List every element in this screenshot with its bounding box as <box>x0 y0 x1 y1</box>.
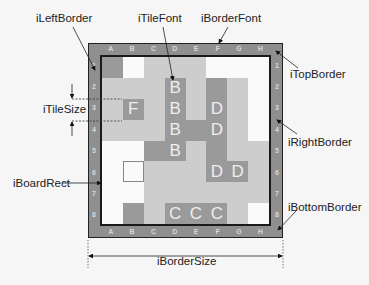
label-bottom-border: iBottomBorder <box>288 201 362 213</box>
board-cell-D8: C <box>165 203 186 224</box>
board-cell-E5 <box>186 141 207 162</box>
left-row-label: 6 <box>89 169 99 176</box>
board-cell-H7 <box>248 182 269 203</box>
board-cell-G2 <box>227 78 248 99</box>
board-cell-A5 <box>102 141 123 162</box>
right-row-label: 1 <box>272 62 282 69</box>
board-cell-B2 <box>123 78 144 99</box>
left-row-label: 8 <box>89 211 99 218</box>
left-row-label: 3 <box>89 104 99 111</box>
board-cell-C6 <box>144 161 165 182</box>
board-cell-B6 <box>123 161 144 182</box>
board-cell-D3: B <box>165 99 186 120</box>
board-cell-G4 <box>227 120 248 141</box>
board-cell-A8 <box>102 203 123 224</box>
board-cell-F3: D <box>206 99 227 120</box>
board-cell-A1 <box>102 57 123 78</box>
board-cell-C5 <box>144 141 165 162</box>
right-row-label: 5 <box>272 147 282 154</box>
board-cell-C4 <box>144 120 165 141</box>
board-cell-A2 <box>102 78 123 99</box>
board-cell-F6: D <box>206 161 227 182</box>
board-cell-E3 <box>186 99 207 120</box>
board-cell-F2 <box>206 78 227 99</box>
right-row-label: 2 <box>272 83 282 90</box>
board-grid: BFBDBDBDDCCC <box>100 55 271 226</box>
board-cell-D5: B <box>165 141 186 162</box>
board-cell-H4 <box>248 120 269 141</box>
board-cell-E1 <box>186 57 207 78</box>
board-cell-A6 <box>102 161 123 182</box>
board-cell-A4 <box>102 120 123 141</box>
board-cell-C1 <box>144 57 165 78</box>
label-border-size: iBorderSize <box>157 255 216 267</box>
board-cell-D6 <box>165 161 186 182</box>
board-cell-B7 <box>123 182 144 203</box>
board-cell-H8 <box>248 203 269 224</box>
board-cell-H3 <box>248 99 269 120</box>
left-row-label: 2 <box>89 83 99 90</box>
board-cell-H5 <box>248 141 269 162</box>
board-cell-E4 <box>186 120 207 141</box>
bottom-column-label: A <box>100 228 121 235</box>
board-cell-F4: D <box>206 120 227 141</box>
right-row-label: 8 <box>272 211 282 218</box>
board-cell-D2: B <box>165 78 186 99</box>
right-row-label: 3 <box>272 104 282 111</box>
board-cell-B4 <box>123 120 144 141</box>
label-top-border: iTopBorder <box>290 68 346 80</box>
bottom-column-label: G <box>228 228 249 235</box>
board-cell-G3 <box>227 99 248 120</box>
board-cell-G6: D <box>227 161 248 182</box>
top-column-label: F <box>207 45 228 52</box>
left-row-label: 4 <box>89 126 99 133</box>
board-cell-A7 <box>102 182 123 203</box>
bottom-column-label: B <box>121 228 142 235</box>
left-row-label: 5 <box>89 147 99 154</box>
label-right-border: iRightBorder <box>288 136 352 148</box>
label-tile-font: iTileFont <box>138 12 182 24</box>
board-cell-B1 <box>123 57 144 78</box>
label-tile-size: iTileSize <box>43 103 86 115</box>
board-cell-G7 <box>227 182 248 203</box>
bottom-column-label: D <box>164 228 185 235</box>
left-row-label: 7 <box>89 190 99 197</box>
board-cell-E7 <box>186 182 207 203</box>
right-row-label: 6 <box>272 169 282 176</box>
left-row-label: 1 <box>89 62 99 69</box>
right-row-label: 4 <box>272 126 282 133</box>
board-cell-B3: F <box>123 99 144 120</box>
board-cell-B8 <box>123 203 144 224</box>
board-cell-F1 <box>206 57 227 78</box>
board-cell-H1 <box>248 57 269 78</box>
top-column-label: G <box>228 45 249 52</box>
board-cell-H6 <box>248 161 269 182</box>
board-cell-E8: C <box>186 203 207 224</box>
board-cell-C2 <box>144 78 165 99</box>
board-cell-C8 <box>144 203 165 224</box>
board-cell-C3 <box>144 99 165 120</box>
board-cell-G1 <box>227 57 248 78</box>
board-cell-D4: B <box>165 120 186 141</box>
bottom-column-label: E <box>186 228 207 235</box>
board-cell-D1 <box>165 57 186 78</box>
board-cell-E6 <box>186 161 207 182</box>
top-column-label: C <box>143 45 164 52</box>
board-cell-F7 <box>206 182 227 203</box>
board-cell-B5 <box>123 141 144 162</box>
board-cell-F5 <box>206 141 227 162</box>
top-column-label: B <box>121 45 142 52</box>
board-cell-G5 <box>227 141 248 162</box>
bottom-column-label: C <box>143 228 164 235</box>
label-border-font: iBorderFont <box>201 12 261 24</box>
board-cell-G8 <box>227 203 248 224</box>
top-column-label: A <box>100 45 121 52</box>
top-column-label: E <box>186 45 207 52</box>
board-cell-D7 <box>165 182 186 203</box>
label-board-rect: iBoardRect <box>13 177 70 189</box>
bottom-column-label: F <box>207 228 228 235</box>
board-cell-A3 <box>102 99 123 120</box>
label-left-border: iLeftBorder <box>36 12 92 24</box>
right-row-label: 7 <box>272 190 282 197</box>
board-cell-E2 <box>186 78 207 99</box>
